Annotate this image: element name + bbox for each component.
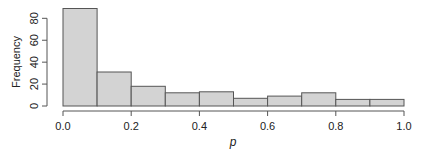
x-axis: 0.00.20.40.60.81.0 xyxy=(55,111,411,132)
histogram-bars xyxy=(63,9,404,107)
y-tick-label: 60 xyxy=(28,34,40,46)
y-axis: 020406080 xyxy=(28,12,47,109)
x-tick-label: 0.2 xyxy=(124,120,139,132)
histogram-bar xyxy=(165,93,199,106)
y-tick-label: 20 xyxy=(28,78,40,90)
histogram-bar xyxy=(131,86,165,106)
histogram-bar xyxy=(302,93,336,106)
x-tick-label: 1.0 xyxy=(396,120,411,132)
y-tick-label: 0 xyxy=(28,103,40,109)
histogram-bar xyxy=(199,92,233,106)
x-tick-label: 0.6 xyxy=(260,120,275,132)
histogram-bar xyxy=(97,72,131,106)
histogram-bar xyxy=(370,99,404,106)
y-tick-label: 40 xyxy=(28,56,40,68)
x-tick-label: 0.0 xyxy=(55,120,70,132)
histogram-chart: 020406080 0.00.20.40.60.81.0 Frequency p xyxy=(0,0,422,155)
histogram-bar xyxy=(268,96,302,106)
x-tick-label: 0.4 xyxy=(192,120,207,132)
y-tick-label: 80 xyxy=(28,12,40,24)
x-tick-label: 0.8 xyxy=(328,120,343,132)
histogram-bar xyxy=(336,99,370,106)
y-axis-title: Frequency xyxy=(10,36,22,88)
histogram-bar xyxy=(63,9,97,107)
histogram-bar xyxy=(234,98,268,106)
x-axis-title: p xyxy=(229,135,237,149)
